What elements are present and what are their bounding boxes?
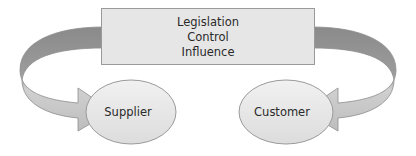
diagram-canvas: Legislation Control Influence Supplier C… [0, 0, 416, 156]
box-line-control: Control [187, 30, 229, 44]
customer-label: Customer [254, 105, 310, 119]
customer-node: Customer [239, 80, 333, 144]
supplier-label: Supplier [104, 105, 152, 119]
box-line-influence: Influence [182, 45, 235, 59]
constraints-box: Legislation Control Influence [102, 9, 315, 65]
box-line-legislation: Legislation [177, 15, 239, 29]
supplier-node: Supplier [86, 80, 176, 144]
